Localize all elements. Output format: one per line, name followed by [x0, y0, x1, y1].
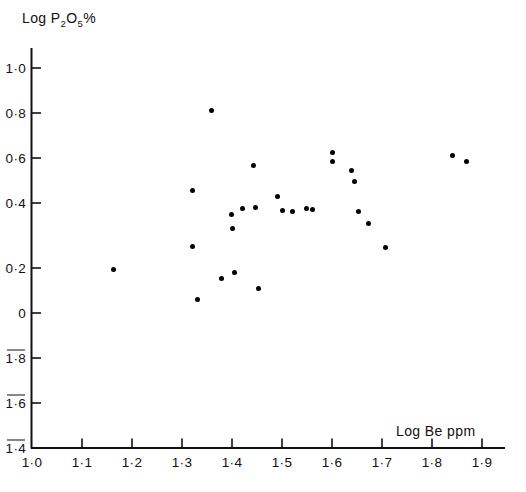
data-point	[256, 286, 261, 291]
data-point	[275, 194, 280, 199]
data-point	[111, 267, 116, 272]
data-point	[190, 244, 195, 249]
data-point	[209, 108, 214, 113]
data-point	[229, 212, 234, 217]
data-point	[366, 221, 371, 226]
data-point	[349, 168, 354, 173]
data-point	[310, 207, 315, 212]
data-point	[280, 208, 285, 213]
data-point	[383, 245, 388, 250]
scatter-plot-figure: Log P2O5% Log Be ppm 1·0 0·8 0·6 0·4 0·2…	[0, 0, 526, 492]
data-point	[230, 226, 235, 231]
data-point	[464, 159, 469, 164]
data-point	[240, 206, 245, 211]
plot-surface: Log P2O5% Log Be ppm 1·0 0·8 0·6 0·4 0·2…	[0, 0, 526, 492]
data-point	[330, 150, 335, 155]
data-point	[304, 206, 309, 211]
data-point	[356, 209, 361, 214]
data-point	[195, 297, 200, 302]
data-point	[251, 163, 256, 168]
data-point	[450, 153, 455, 158]
data-point	[330, 159, 335, 164]
data-points-layer	[0, 0, 526, 492]
data-point	[352, 179, 357, 184]
data-point	[190, 188, 195, 193]
data-point	[232, 270, 237, 275]
data-point	[290, 209, 295, 214]
data-point	[253, 205, 258, 210]
data-point	[219, 276, 224, 281]
